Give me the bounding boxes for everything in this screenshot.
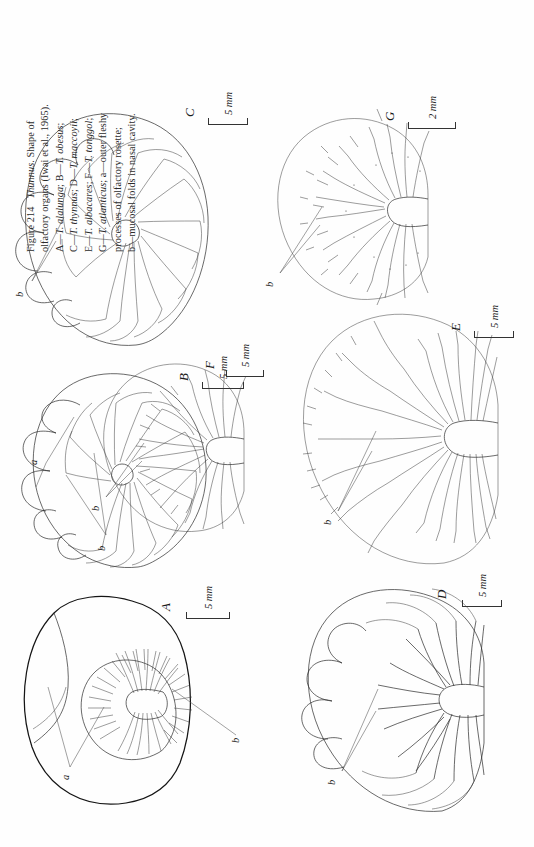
- annotation-a-panel-B: a: [28, 460, 39, 465]
- scale-bar-E: 5 mm: [474, 305, 514, 338]
- scale-bar-E-label: 5 mm: [489, 305, 500, 328]
- scale-bar-G: 2 mm: [408, 96, 456, 129]
- annotation-b-panel-E: b: [322, 520, 333, 525]
- panel-label-G: G: [382, 112, 398, 121]
- annotation-a-panel-A: a: [60, 775, 71, 780]
- panel-C: b C 5 mm: [4, 97, 254, 367]
- panel-D-drawing: [272, 575, 522, 835]
- scale-bar-F-label: 5 mm: [240, 344, 251, 367]
- panel-label-A: A: [158, 603, 174, 611]
- scale-bar-F-rule: [226, 370, 264, 377]
- panel-G: b G 2 mm: [262, 102, 447, 317]
- scale-bar-A-rule: [186, 612, 230, 619]
- annotation-b-panel-F: b: [90, 506, 101, 511]
- scale-bar-C-rule: [208, 118, 248, 125]
- scale-bar-C-label: 5 mm: [223, 92, 234, 115]
- scale-bar-G-rule: [408, 122, 456, 129]
- annotation-b-panel-C: b: [14, 292, 25, 297]
- panel-G-drawing: [262, 102, 447, 317]
- panel-F: b F 5 mm: [86, 357, 261, 547]
- panel-label-C: C: [182, 108, 198, 117]
- panel-C-drawing: [4, 97, 254, 367]
- scale-bar-G-label: 2 mm: [427, 96, 438, 119]
- rotated-page-content: Figure 214 Thunnus. Shape of olfactory o…: [0, 0, 534, 847]
- annotation-b-panel-A: b: [230, 738, 241, 743]
- panel-D: b D 5 mm: [272, 575, 522, 835]
- annotation-b-panel-G: b: [264, 282, 275, 287]
- panel-label-E: E: [448, 323, 464, 331]
- scale-bar-F: 5 mm: [226, 344, 264, 377]
- scale-bar-E-rule: [474, 331, 514, 338]
- panel-label-D: D: [434, 590, 450, 599]
- panel-label-F: F: [202, 361, 218, 369]
- panel-F-drawing: [86, 357, 261, 547]
- scale-bar-D-rule: [462, 600, 502, 607]
- scale-bar-C: 5 mm: [208, 92, 248, 125]
- panel-E: b E 5 mm: [276, 306, 524, 581]
- figure-plate: Figure 214 Thunnus. Shape of olfactory o…: [0, 0, 534, 847]
- annotation-b-panel-D: b: [326, 780, 337, 785]
- panel-E-drawing: [276, 306, 524, 581]
- panel-A: a b A 5 mm: [8, 579, 258, 839]
